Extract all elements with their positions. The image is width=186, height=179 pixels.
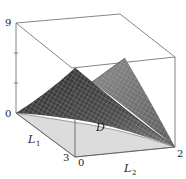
z-max-label: 9 bbox=[5, 17, 11, 28]
l2-end-label: 2 bbox=[177, 148, 183, 159]
svg-text:1: 1 bbox=[36, 140, 40, 148]
l2-axis-label: L 2 bbox=[123, 162, 136, 177]
z-min-label: 0 bbox=[5, 108, 11, 119]
surface-plot: 9 0 3 0 2 L 1 L 2 D bbox=[0, 0, 186, 179]
l1-end-label: 3 bbox=[63, 152, 69, 163]
l2-start-label: 0 bbox=[78, 157, 84, 168]
svg-text:2: 2 bbox=[132, 169, 136, 177]
region-d-label: D bbox=[95, 121, 105, 134]
l1-axis-label: L 1 bbox=[27, 133, 40, 148]
svg-text:L: L bbox=[27, 133, 35, 146]
svg-text:L: L bbox=[123, 162, 131, 175]
